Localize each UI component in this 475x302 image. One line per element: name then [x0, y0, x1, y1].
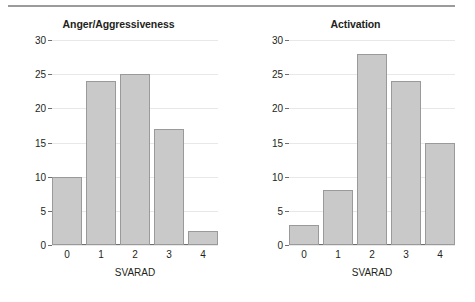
y-axis-label: N. of patients	[2, 0, 16, 68]
bar-series	[289, 40, 455, 245]
bar	[357, 54, 387, 245]
x-tick-label: 3	[154, 249, 184, 260]
chart-panel-activation: Activation N. of patients 302520151050 0…	[237, 10, 474, 302]
y-axis-label: N. of patients	[239, 0, 253, 68]
chart-panel-anger-aggressiveness: Anger/Aggressiveness N. of patients 3025…	[0, 10, 237, 302]
y-tick-label: 0	[40, 240, 46, 251]
x-tick-label: 4	[188, 249, 218, 260]
y-tick-label: 30	[272, 35, 283, 46]
y-tick-label: 5	[277, 205, 283, 216]
panel-title: Activation	[237, 18, 474, 30]
y-tick-label: 10	[272, 171, 283, 182]
bar-series	[52, 40, 218, 245]
y-tick-label: 25	[35, 69, 46, 80]
y-tick-mark	[48, 245, 52, 246]
y-tick-label: 20	[35, 103, 46, 114]
plot-area: 302520151050	[52, 40, 218, 245]
y-tick-label: 5	[40, 205, 46, 216]
x-tick-labels: 01234	[52, 249, 218, 260]
x-tick-label: 0	[52, 249, 82, 260]
bar	[52, 177, 82, 245]
x-tick-label: 4	[425, 249, 455, 260]
y-tick-label: 10	[35, 171, 46, 182]
bar	[425, 143, 455, 246]
plot-area: 302520151050	[289, 40, 455, 245]
x-axis-label: SVARAD	[52, 267, 218, 278]
bar	[323, 190, 353, 245]
y-tick-label: 25	[272, 69, 283, 80]
gridline: 0	[289, 245, 455, 246]
x-tick-labels: 01234	[289, 249, 455, 260]
x-tick-label: 1	[323, 249, 353, 260]
x-axis-label: SVARAD	[289, 267, 455, 278]
bar	[289, 225, 319, 246]
x-tick-label: 2	[357, 249, 387, 260]
y-tick-label: 15	[35, 137, 46, 148]
bar	[86, 81, 116, 245]
bar	[391, 81, 421, 245]
y-tick-mark	[285, 245, 289, 246]
bar	[188, 231, 218, 245]
gridline: 0	[52, 245, 218, 246]
bar	[154, 129, 184, 245]
figure-separator-rule	[8, 5, 455, 7]
y-tick-label: 20	[272, 103, 283, 114]
x-tick-label: 2	[120, 249, 150, 260]
x-tick-label: 0	[289, 249, 319, 260]
figure-panels: Anger/Aggressiveness N. of patients 3025…	[0, 10, 475, 302]
y-tick-label: 0	[277, 240, 283, 251]
y-tick-label: 30	[35, 35, 46, 46]
y-tick-label: 15	[272, 137, 283, 148]
bar	[120, 74, 150, 245]
panel-title: Anger/Aggressiveness	[0, 18, 237, 30]
x-tick-label: 3	[391, 249, 421, 260]
x-tick-label: 1	[86, 249, 116, 260]
